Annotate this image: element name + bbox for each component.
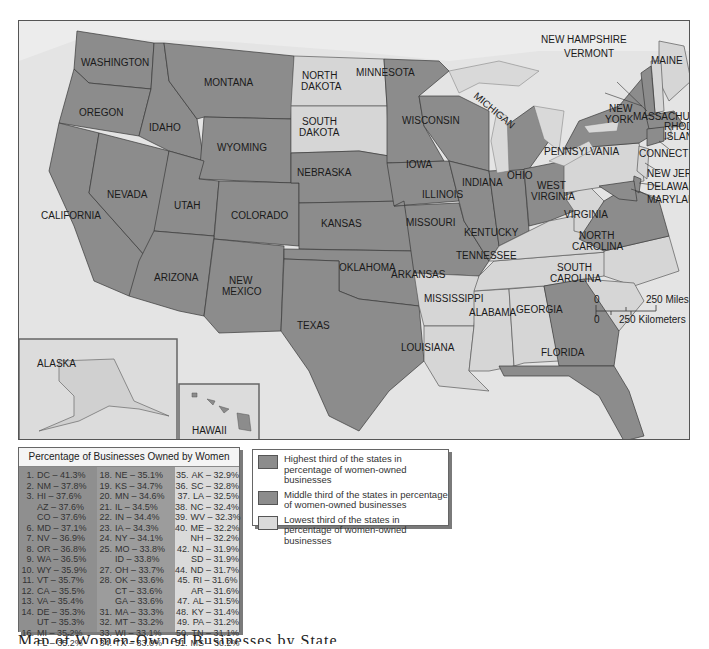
table-entry: NV – 36.9%	[37, 533, 97, 544]
table-row: 24.NY – 34.1%	[97, 533, 175, 544]
scale-zero-km: 0	[594, 314, 600, 325]
table-rank: 45.	[175, 575, 193, 586]
scale-km-label: 250 Kilometers	[619, 314, 686, 325]
label-west-virginia-1: WEST	[537, 180, 566, 191]
label-idaho: IDAHO	[149, 122, 181, 133]
label-north-dakota-1: NORTH	[302, 70, 337, 81]
table-rank: 22.	[97, 512, 115, 523]
table-row: NH – 32.2%	[175, 533, 239, 544]
legend-swatch-highest	[258, 455, 278, 469]
table-entry: OK – 33.6%	[115, 575, 175, 586]
label-west-virginia-2: VIRGINIA	[531, 191, 575, 202]
table-row: 10.WY – 35.9%	[19, 565, 97, 576]
label-north-dakota-2: DAKOTA	[301, 81, 342, 92]
label-kansas: KANSAS	[321, 218, 362, 229]
table-entry: ND – 31.7%	[191, 565, 240, 576]
table-entry: RI – 31.6%	[193, 575, 239, 586]
table-rank: 28.	[97, 575, 115, 586]
table-rank: 3.	[19, 491, 37, 502]
label-alabama: ALABAMA	[469, 307, 517, 318]
label-north-carolina-2: CAROLINA	[572, 241, 623, 252]
table-entry: KY – 31.4%	[192, 607, 239, 618]
table-rank	[175, 533, 190, 544]
table-rank	[97, 554, 115, 565]
label-minnesota: MINNESOTA	[356, 67, 415, 78]
table-entry: CT – 33.6%	[115, 586, 175, 597]
table-row: 7.NV – 36.9%	[19, 533, 97, 544]
table-rank: 25.	[97, 544, 115, 555]
table-entry: DE – 35.3%	[37, 607, 97, 618]
legend-text-lowest: Lowest third of the states in percentage…	[284, 515, 448, 547]
label-new-mexico-2: MEXICO	[222, 286, 262, 297]
legend-text-middle: Middle third of the states in percentage…	[284, 490, 448, 511]
table-rank: 39.	[175, 512, 191, 523]
label-connecticut: CONNECTICUT	[639, 148, 690, 159]
table-rank: 47.	[175, 596, 193, 607]
table-row: 2.NM – 37.8%	[19, 481, 97, 492]
table-row: 32.MT – 33.2%	[97, 617, 175, 628]
table-row: 49.PA – 31.2%	[175, 617, 239, 628]
label-iowa: IOWA	[406, 159, 433, 170]
table-row: 6.MD – 37.1%	[19, 523, 97, 534]
table-rank: 13.	[19, 596, 37, 607]
table-entry: CA – 35.5%	[37, 586, 97, 597]
label-louisiana: LOUISIANA	[401, 342, 455, 353]
label-indiana: INDIANA	[462, 177, 503, 188]
table-entry: VT – 35.7%	[37, 575, 97, 586]
figure-caption: Map of Women-Owned Businesses by State	[18, 632, 338, 644]
table-row: 38.NC – 32.4%	[175, 502, 239, 513]
table-rank: 7.	[19, 533, 37, 544]
table-row: 45.RI – 31.6%	[175, 575, 239, 586]
label-tennessee: TENNESSEE	[456, 250, 517, 261]
table-entry: IN – 34.4%	[115, 512, 175, 523]
label-nebraska: NEBRASKA	[297, 167, 352, 178]
label-south-carolina-2: CAROLINA	[550, 273, 601, 284]
table-row: 23.IA – 34.3%	[97, 523, 175, 534]
label-hawaii: HAWAII	[192, 425, 227, 436]
table-rank: 6.	[19, 523, 37, 534]
table-row: 19.KS – 34.7%	[97, 481, 175, 492]
table-rank: 42.	[175, 544, 192, 555]
table-entry: UT – 35.3%	[37, 617, 97, 628]
table-rank: 11.	[19, 575, 37, 586]
table-row: 39.WV – 32.3%	[175, 512, 239, 523]
table-rank: 9.	[19, 554, 37, 565]
table-row: 14.DE – 35.3%	[19, 607, 97, 618]
map-canvas: 0 0 250 Miles 250 Kilometers WASHINGTON …	[19, 21, 690, 440]
table-rank: 40.	[175, 523, 191, 534]
legend-item-middle: Middle third of the states in percentage…	[258, 490, 448, 511]
table-entry: ME – 32.2%	[191, 523, 240, 534]
table-rank: 12.	[19, 586, 37, 597]
table-entry: LA – 32.5%	[193, 491, 239, 502]
table-entry: MT – 33.2%	[115, 617, 175, 628]
table-rank: 35.	[175, 470, 191, 481]
table-rank: 38.	[175, 502, 191, 513]
label-georgia: GEORGIA	[516, 304, 563, 315]
table-entry: PA – 31.2%	[193, 617, 239, 628]
table-row: 31.MA – 33.3%	[97, 607, 175, 618]
table-entry: NM – 37.8%	[37, 481, 97, 492]
label-massachusetts: MASSACHUSETTS	[633, 111, 690, 122]
table-row: 35.AK – 32.9%	[175, 470, 239, 481]
table-entry: AZ – 37.6%	[37, 502, 97, 513]
label-illinois: ILLINOIS	[422, 189, 463, 200]
table-entry: HI – 37.6%	[37, 491, 97, 502]
label-wyoming: WYOMING	[217, 142, 267, 153]
table-row: 27.OH – 33.7%	[97, 565, 175, 576]
table-row: CO – 37.6%	[19, 512, 97, 523]
label-new-york-1: NEW	[609, 103, 633, 114]
table-entry: NC – 32.4%	[191, 502, 240, 513]
label-delaware: DELAWARE	[647, 181, 690, 192]
label-texas: TEXAS	[297, 320, 330, 331]
table-entry: CO – 37.6%	[37, 512, 97, 523]
table-rank: 27.	[97, 565, 115, 576]
table-entry: WV – 32.3%	[191, 512, 241, 523]
table-entry: AL – 31.5%	[193, 596, 239, 607]
table-row: ID – 33.8%	[97, 554, 175, 565]
label-new-york-2: YORK	[605, 114, 634, 125]
label-ohio: OHIO	[507, 170, 533, 181]
table-column-middle: 18.NE – 35.1%19.KS – 34.7%20.MN – 34.6%2…	[97, 467, 175, 632]
label-south-dakota-1: SOUTH	[302, 116, 337, 127]
table-entry: WA – 36.5%	[37, 554, 97, 565]
table-entry: GA – 33.6%	[115, 596, 175, 607]
